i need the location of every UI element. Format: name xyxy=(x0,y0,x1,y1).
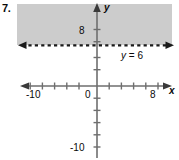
y-tick-label-8: 8 xyxy=(79,25,85,36)
x-tick-label-8: 8 xyxy=(150,89,156,100)
equation-rest: = 6 xyxy=(126,50,143,61)
coordinate-plane-graph xyxy=(0,0,179,160)
math-problem-figure: 7. xyxy=(0,0,179,160)
y-tick-label-neg10: -10 xyxy=(70,142,84,153)
y-axis-label: y xyxy=(104,2,110,13)
x-axis-label: x xyxy=(169,85,175,96)
line-equation-annotation: y = 6 xyxy=(121,50,143,61)
x-tick-label-0: 0 xyxy=(85,89,91,100)
x-tick-label-neg10: -10 xyxy=(26,89,40,100)
